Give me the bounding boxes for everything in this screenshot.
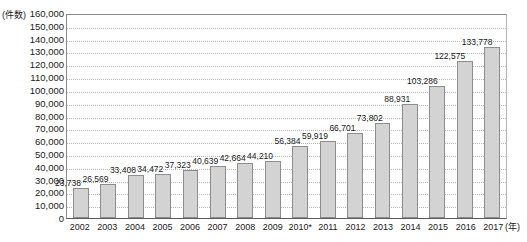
bar-slot: 133,778 bbox=[479, 15, 506, 218]
bar-value-label: 56,384 bbox=[275, 137, 301, 146]
y-axis-tick-label: 80,000 bbox=[0, 112, 64, 122]
bar-value-label: 23,738 bbox=[55, 179, 81, 188]
bar[interactable]: 133,778 bbox=[484, 47, 500, 218]
y-axis-tick-label: 0 bbox=[0, 214, 64, 224]
bar-slot: 26,569 bbox=[94, 15, 121, 218]
x-axis-tick-label: 2013 bbox=[369, 222, 397, 236]
bar[interactable]: 33,408 bbox=[128, 175, 144, 218]
x-axis-tick-label: 2016 bbox=[452, 222, 480, 236]
y-axis-tick-label: 20,000 bbox=[0, 189, 64, 199]
bar-chart: (件数) 160,000150,000140,000130,000120,000… bbox=[0, 0, 527, 242]
bar-value-label: 26,569 bbox=[82, 175, 108, 184]
y-axis-tick-label: 100,000 bbox=[0, 86, 64, 96]
bar-value-label: 40,639 bbox=[192, 157, 218, 166]
y-axis-tick-label: 110,000 bbox=[0, 73, 64, 83]
y-axis-tick-label: 120,000 bbox=[0, 61, 64, 71]
x-axis-tick-label: 2004 bbox=[121, 222, 149, 236]
plot-area: 23,73826,56933,40834,47237,32340,63942,6… bbox=[66, 14, 507, 219]
bar-slot: 33,408 bbox=[122, 15, 149, 218]
bar-value-label: 133,778 bbox=[462, 38, 493, 47]
y-axis-tick-labels: 160,000150,000140,000130,000120,000110,0… bbox=[0, 9, 64, 220]
bar[interactable]: 88,931 bbox=[402, 104, 418, 218]
bar[interactable]: 40,639 bbox=[210, 166, 226, 218]
y-axis-tick-label: 130,000 bbox=[0, 48, 64, 58]
bar-value-label: 66,701 bbox=[329, 124, 355, 133]
bar-value-label: 42,664 bbox=[220, 154, 246, 163]
bar-value-label: 44,210 bbox=[247, 152, 273, 161]
y-axis-tick-label: 70,000 bbox=[0, 125, 64, 135]
x-axis-tick-label: 2006 bbox=[176, 222, 204, 236]
x-axis-tick-label: 2010* bbox=[287, 222, 315, 236]
bar-slot: 44,210 bbox=[259, 15, 286, 218]
bar-value-label: 88,931 bbox=[384, 95, 410, 104]
bar-slot: 37,323 bbox=[177, 15, 204, 218]
y-axis-tick-label: 90,000 bbox=[0, 99, 64, 109]
bar-value-label: 59,919 bbox=[302, 132, 328, 141]
bar-series: 23,73826,56933,40834,47237,32340,63942,6… bbox=[67, 15, 506, 218]
y-axis-tick-label: 40,000 bbox=[0, 163, 64, 173]
bar[interactable]: 59,919 bbox=[320, 141, 336, 218]
bar[interactable]: 37,323 bbox=[183, 170, 199, 218]
y-axis-tick-label: 150,000 bbox=[0, 22, 64, 32]
bar-slot: 42,664 bbox=[232, 15, 259, 218]
x-axis-tick-label: 2011 bbox=[314, 222, 342, 236]
bar-slot: 103,286 bbox=[424, 15, 451, 218]
bar[interactable]: 66,701 bbox=[347, 133, 363, 218]
bar[interactable]: 42,664 bbox=[237, 163, 253, 218]
bar-slot: 56,384 bbox=[287, 15, 314, 218]
y-axis-tick-label: 160,000 bbox=[0, 9, 64, 19]
bar[interactable]: 44,210 bbox=[265, 161, 281, 218]
bar[interactable]: 23,738 bbox=[73, 188, 89, 218]
bar-value-label: 73,802 bbox=[357, 114, 383, 123]
x-axis-tick-label: 2008 bbox=[231, 222, 259, 236]
bar-value-label: 33,408 bbox=[110, 166, 136, 175]
x-axis-tick-label: 2012 bbox=[342, 222, 370, 236]
x-axis-tick-label: 2017 bbox=[479, 222, 507, 236]
y-axis-tick-label: 60,000 bbox=[0, 137, 64, 147]
x-axis-tick-label: 2015 bbox=[424, 222, 452, 236]
bar[interactable]: 56,384 bbox=[292, 146, 308, 218]
bar-slot: 23,738 bbox=[67, 15, 94, 218]
bar-slot: 40,639 bbox=[204, 15, 231, 218]
bar-value-label: 122,575 bbox=[434, 52, 465, 61]
x-axis-tick-label: 2007 bbox=[204, 222, 232, 236]
bar-slot: 34,472 bbox=[149, 15, 176, 218]
x-axis-tick-label: 2009 bbox=[259, 222, 287, 236]
bar-slot: 73,802 bbox=[369, 15, 396, 218]
x-axis-tick-label: 2003 bbox=[94, 222, 122, 236]
x-axis-tick-label: 2002 bbox=[66, 222, 94, 236]
x-axis-unit-label: (年) bbox=[505, 222, 520, 233]
bar[interactable]: 73,802 bbox=[375, 123, 391, 218]
bar[interactable]: 34,472 bbox=[155, 174, 171, 218]
bar[interactable]: 103,286 bbox=[429, 86, 445, 218]
bar[interactable]: 26,569 bbox=[100, 184, 116, 218]
x-axis-tick-labels: 200220032004200520062007200820092010*201… bbox=[66, 222, 507, 236]
x-axis-tick-label: 2014 bbox=[397, 222, 425, 236]
y-axis-tick-label: 50,000 bbox=[0, 150, 64, 160]
bar-value-label: 37,323 bbox=[165, 161, 191, 170]
y-axis-tick-label: 140,000 bbox=[0, 35, 64, 45]
bar-slot: 88,931 bbox=[396, 15, 423, 218]
bar[interactable]: 122,575 bbox=[457, 61, 473, 218]
y-axis-tick-label: 10,000 bbox=[0, 201, 64, 211]
bar-value-label: 34,472 bbox=[137, 165, 163, 174]
bar-value-label: 103,286 bbox=[407, 77, 438, 86]
x-axis-tick-label: 2005 bbox=[149, 222, 177, 236]
bar-slot: 59,919 bbox=[314, 15, 341, 218]
